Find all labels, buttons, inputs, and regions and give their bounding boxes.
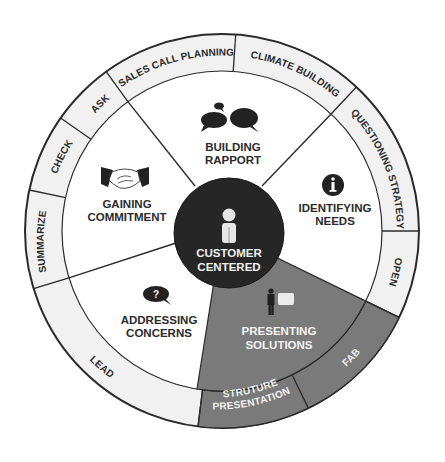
- sector-label-line2: SOLUTIONS: [245, 339, 312, 351]
- handshake-icon: [101, 167, 149, 188]
- sector-label-line1: BUILDING: [205, 141, 261, 153]
- sector-label-line1: GAINING: [102, 198, 151, 210]
- sector-label-line1: PRESENTING: [242, 325, 317, 337]
- svg-text:?: ?: [153, 289, 159, 300]
- sector-label-line1: IDENTIFYING: [299, 202, 372, 214]
- sector-label-line2: NEEDS: [315, 215, 355, 227]
- person-icon: [222, 209, 236, 244]
- sales-process-wheel: CUSTOMER CENTERED BUILDING RAPPORT IDENT…: [0, 0, 445, 462]
- center-label-line2: CENTERED: [197, 261, 260, 273]
- sector-label-line2: RAPPORT: [205, 154, 261, 166]
- center-label-line1: CUSTOMER: [196, 247, 262, 259]
- sector-label-line2: CONCERNS: [126, 327, 192, 339]
- info-icon: [322, 174, 344, 196]
- sector-label-line2: COMMITMENT: [87, 211, 166, 223]
- sector-label-line1: ADDRESSING: [121, 314, 198, 326]
